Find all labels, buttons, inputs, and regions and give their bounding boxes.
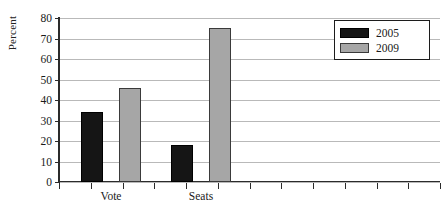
gridline <box>59 121 440 122</box>
bar-vote-2009 <box>119 88 141 182</box>
y-tick-label: 20 <box>30 136 52 146</box>
y-tick-label: 40 <box>30 95 52 105</box>
y-tick-mark <box>55 100 60 101</box>
y-tick-mark <box>55 59 60 60</box>
x-tick-mark <box>186 183 187 189</box>
y-tick-mark <box>55 39 60 40</box>
y-tick-label: 80 <box>30 13 52 23</box>
legend-swatch-2009-icon <box>340 43 369 53</box>
chart-legend: 2005 2009 <box>334 20 430 60</box>
x-category-label: Seats <box>161 190 241 202</box>
gridline <box>59 141 440 142</box>
y-tick-mark <box>55 18 60 19</box>
y-tick-mark <box>55 141 60 142</box>
y-tick-label: 30 <box>30 116 52 126</box>
bar-chart: Percent 80706050403020100 VoteSeats 2005… <box>0 0 441 213</box>
y-tick-mark <box>55 80 60 81</box>
x-category-label: Vote <box>71 190 151 202</box>
legend-item: 2009 <box>340 40 424 55</box>
y-tick-label: 0 <box>30 177 52 187</box>
x-tick-mark <box>154 183 155 189</box>
gridline <box>59 100 440 101</box>
x-tick-mark <box>345 183 346 189</box>
x-tick-mark <box>313 183 314 189</box>
legend-label: 2005 <box>376 27 399 39</box>
y-tick-label: 10 <box>30 157 52 167</box>
gridline <box>59 80 440 81</box>
y-tick-mark <box>55 121 60 122</box>
x-tick-mark <box>281 183 282 189</box>
gridline <box>59 162 440 163</box>
y-tick-mark <box>55 162 60 163</box>
y-tick-label: 70 <box>30 34 52 44</box>
y-axis-title: Percent <box>3 0 21 78</box>
bar-vote-2005 <box>81 112 103 182</box>
legend-label: 2009 <box>376 42 399 54</box>
legend-swatch-2005-icon <box>340 28 369 38</box>
bar-seats-2009 <box>209 28 231 182</box>
x-tick-mark <box>91 183 92 189</box>
y-tick-label: 60 <box>30 54 52 64</box>
gridline <box>59 18 440 19</box>
legend-item: 2005 <box>340 25 424 40</box>
x-tick-mark <box>218 183 219 189</box>
y-axis-tick-labels: 80706050403020100 <box>28 0 52 213</box>
bar-seats-2005 <box>171 145 193 182</box>
x-tick-mark <box>59 183 60 189</box>
y-tick-label: 50 <box>30 75 52 85</box>
x-tick-mark <box>408 183 409 189</box>
x-tick-mark <box>250 183 251 189</box>
x-tick-mark <box>377 183 378 189</box>
x-tick-mark <box>123 183 124 189</box>
